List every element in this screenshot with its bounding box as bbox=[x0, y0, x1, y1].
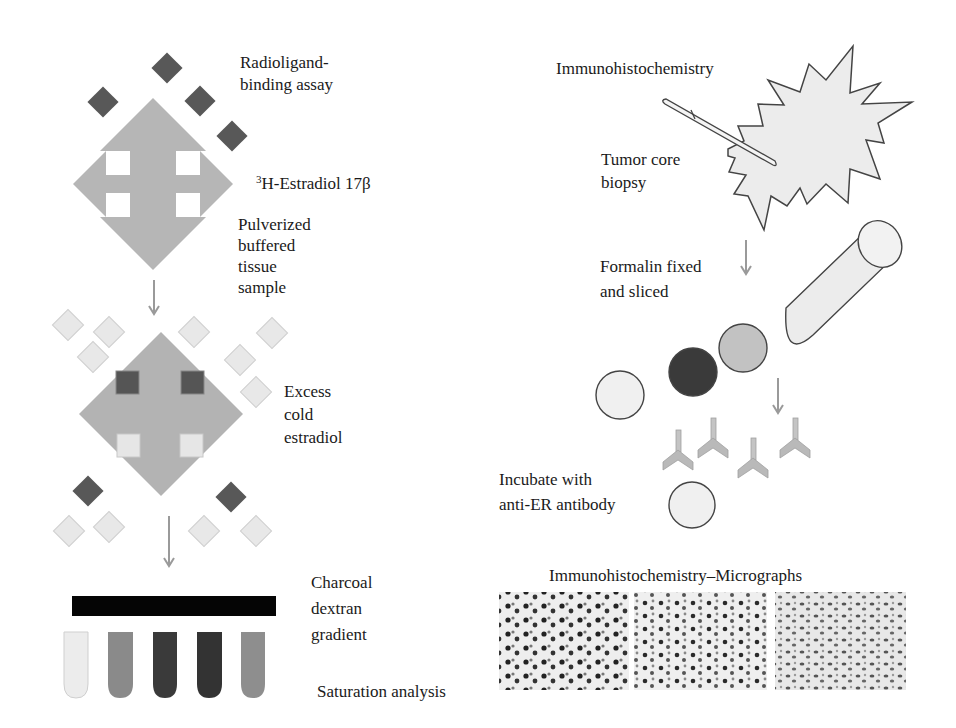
receptor-cross-arrow bbox=[73, 98, 233, 270]
excess-cold-estradiol-label: Excess cold estradiol bbox=[284, 380, 343, 449]
fixed-line: and sliced bbox=[600, 279, 702, 304]
test-tube-1 bbox=[64, 632, 88, 698]
test-tube-4 bbox=[197, 632, 222, 698]
arrow-down-icon bbox=[741, 240, 751, 274]
fixed-line: Formalin fixed bbox=[600, 254, 702, 279]
charcoal-dextran-label: Charcoal dextran gradient bbox=[311, 570, 372, 648]
incubate-line: anti-ER antibody bbox=[499, 492, 616, 517]
sample-line: buffered bbox=[238, 235, 311, 256]
micrographs bbox=[499, 592, 906, 690]
incubate-line: Incubate with bbox=[499, 467, 616, 492]
biopsy-line: Tumor core bbox=[601, 148, 680, 171]
cold-line: cold bbox=[284, 403, 343, 426]
charcoal-dextran-bar bbox=[72, 596, 276, 616]
radioligand-title-line1: Radioligand- bbox=[240, 52, 333, 74]
micrographs-title: Immunohistochemistry–Micrographs bbox=[549, 565, 802, 587]
cold-line: Excess bbox=[284, 380, 343, 403]
tumor-starburst bbox=[728, 46, 912, 230]
arrow-down-icon bbox=[164, 516, 174, 566]
biopsy-line: biopsy bbox=[601, 171, 680, 194]
formalin-fixed-label: Formalin fixed and sliced bbox=[600, 254, 702, 304]
diagram-canvas bbox=[0, 0, 956, 728]
test-tubes bbox=[64, 632, 265, 698]
tissue-core-cylinder bbox=[786, 213, 910, 344]
micrograph-3 bbox=[775, 592, 906, 690]
micrograph-1 bbox=[499, 592, 629, 690]
sample-line: Pulverized bbox=[238, 214, 311, 235]
immunohistochemistry-title: Immunohistochemistry bbox=[556, 58, 714, 80]
released-light-diamonds bbox=[53, 511, 271, 546]
arrow-down-icon bbox=[773, 378, 783, 413]
saturation-analysis-label: Saturation analysis bbox=[317, 681, 446, 703]
arrow-down-icon bbox=[149, 280, 159, 314]
antibody-icons bbox=[663, 418, 810, 478]
slice-medium bbox=[719, 324, 767, 372]
tissue-sample-label: Pulverized buffered tissue sample bbox=[238, 214, 311, 298]
gradient-line: gradient bbox=[311, 622, 372, 648]
test-tube-2 bbox=[108, 632, 133, 698]
cold-line: estradiol bbox=[284, 426, 343, 449]
micrograph-2 bbox=[634, 592, 767, 690]
tumor-core-biopsy-label: Tumor core biopsy bbox=[601, 148, 680, 194]
ligand-label-text: H-Estradiol 17β bbox=[262, 174, 371, 193]
tissue-slices bbox=[596, 324, 767, 419]
radioligand-title-line2: binding assay bbox=[240, 74, 333, 96]
test-tube-5 bbox=[241, 632, 265, 698]
sample-line: sample bbox=[238, 277, 311, 298]
slice-light bbox=[596, 371, 644, 419]
ligand-label: 3H-Estradiol 17β bbox=[256, 168, 371, 195]
radioligand-title: Radioligand- binding assay bbox=[240, 52, 333, 96]
incubated-slice bbox=[669, 482, 715, 528]
sample-line: tissue bbox=[238, 256, 311, 277]
incubate-label: Incubate with anti-ER antibody bbox=[499, 467, 616, 517]
slice-dark bbox=[669, 348, 717, 396]
gradient-line: Charcoal bbox=[311, 570, 372, 596]
gradient-line: dextran bbox=[311, 596, 372, 622]
test-tube-3 bbox=[153, 632, 177, 698]
